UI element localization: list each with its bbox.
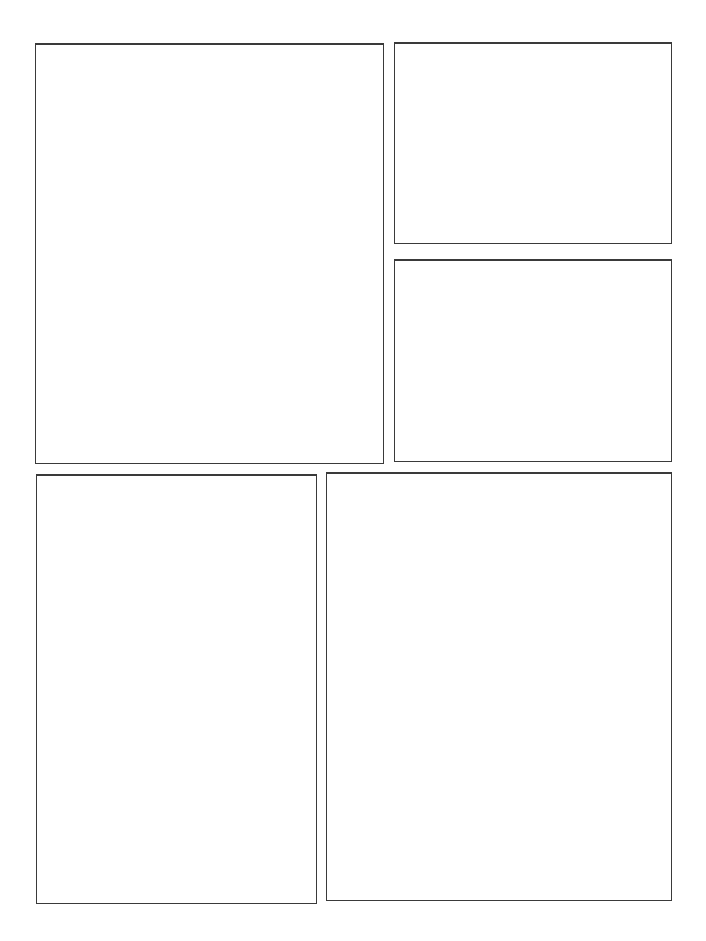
panel-4 bbox=[36, 474, 317, 904]
panel-1 bbox=[35, 43, 384, 464]
panel-5 bbox=[326, 472, 672, 901]
panel-2 bbox=[394, 42, 672, 244]
panel-3 bbox=[394, 259, 672, 462]
comic-page bbox=[0, 0, 706, 941]
